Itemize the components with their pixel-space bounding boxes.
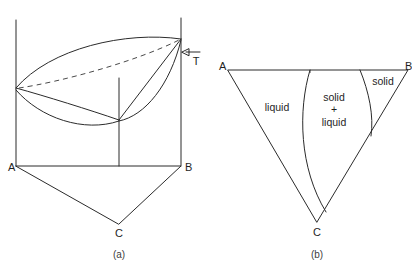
panel-b-vertex-label-a: A <box>219 60 226 73</box>
panel-a-liquidus-rim-ac-lower <box>16 90 119 125</box>
panel-b-region-label-liquid: liquid <box>265 101 290 113</box>
panel-b-caption: (b) <box>311 249 323 261</box>
panel-a-graphics <box>16 18 200 224</box>
panel-a-liquidus-rim-ab <box>16 37 181 88</box>
panel-a-vertex-label-c: C <box>115 227 123 240</box>
panel-a-vertex-label-b: B <box>185 161 192 174</box>
panel-b-vertex-label-b: B <box>405 60 412 73</box>
panel-a-vertex-label-a: A <box>8 161 15 174</box>
panel-a-liquidus-rim-cb-upper <box>119 39 181 120</box>
panel-b-region-label-solid-plus-liquid: solid + liquid <box>322 91 347 128</box>
panel-a-base-triangle <box>16 166 181 224</box>
panel-b-region-label-solid: solid <box>372 75 394 87</box>
panel-b-region-label-solid-plus-liquid-line3: liquid <box>322 116 347 128</box>
panel-b-graphics <box>228 70 408 222</box>
panel-b-region-label-solid-plus-liquid-line1: solid <box>322 91 347 103</box>
panel-b-region-label-solid-plus-liquid-line2: + <box>322 104 347 116</box>
panel-b-triangle <box>228 70 408 222</box>
panel-b-boundary-solidliquid-solid <box>360 70 372 136</box>
panel-a-caption: (a) <box>113 249 125 261</box>
panel-b-vertex-label-c: C <box>313 226 321 239</box>
panel-a-hidden-edge-ab <box>19 40 179 88</box>
panel-a-temperature-axis-label: T <box>193 55 200 68</box>
